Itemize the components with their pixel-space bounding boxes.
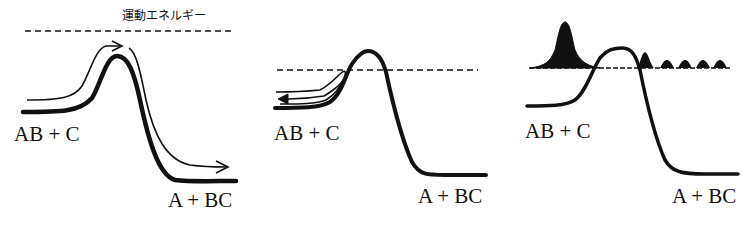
transmitted-wave-bump-4 bbox=[713, 60, 727, 68]
reactant-label: AB + C bbox=[14, 124, 80, 145]
panel-over-barrier: 運動エネルギー AB + C A + BC bbox=[0, 0, 250, 226]
reactant-label: AB + C bbox=[525, 121, 591, 142]
panel-tunneling: AB + C A + BC bbox=[500, 0, 743, 226]
trajectory-path bbox=[27, 46, 120, 100]
reactant-label: AB + C bbox=[274, 123, 340, 144]
incident-wave-packet bbox=[530, 22, 600, 68]
transmitted-wave-bump-1 bbox=[660, 60, 674, 68]
transmitted-wave-bump-3 bbox=[696, 60, 710, 68]
panel-reflection: AB + C A + BC bbox=[250, 0, 500, 226]
product-label: A + BC bbox=[418, 186, 482, 207]
transmitted-wave-bump-2 bbox=[678, 60, 692, 68]
potential-energy-curve bbox=[23, 56, 236, 181]
product-label: A + BC bbox=[168, 190, 232, 211]
transmitted-wave-peak bbox=[638, 52, 654, 68]
reflection-arrowhead-left bbox=[278, 94, 288, 104]
kinetic-energy-label: 運動エネルギー bbox=[122, 10, 206, 22]
product-label: A + BC bbox=[672, 186, 736, 207]
